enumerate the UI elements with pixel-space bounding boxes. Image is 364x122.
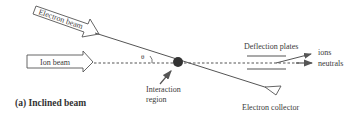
neutrals-label: neutrals: [318, 59, 343, 68]
interaction-region-label-1: Interaction: [146, 85, 181, 94]
electron-beam-label: Electron beam: [37, 7, 85, 31]
interaction-region-dot: [173, 57, 183, 67]
interaction-region-pointer: [160, 71, 171, 84]
ions-arrow: [276, 54, 311, 63]
interaction-region-label-2: region: [146, 95, 166, 104]
diagram-caption: (a) Inclined beam: [15, 98, 86, 109]
deflection-plates-label: Deflection plates: [244, 42, 298, 51]
theta-arc: [150, 56, 152, 63]
inclined-beam-diagram: Electron beam Ion beam θ Interaction reg…: [0, 0, 364, 122]
electron-collector-icon: [265, 86, 281, 95]
ions-label: ions: [318, 48, 331, 57]
ion-beam-label: Ion beam: [40, 58, 71, 67]
ion-beam-arrow: Ion beam: [27, 51, 93, 72]
theta-label: θ: [141, 53, 145, 61]
electron-beam-arrow: Electron beam: [33, 6, 99, 37]
electron-collector-label: Electron collector: [242, 103, 299, 112]
